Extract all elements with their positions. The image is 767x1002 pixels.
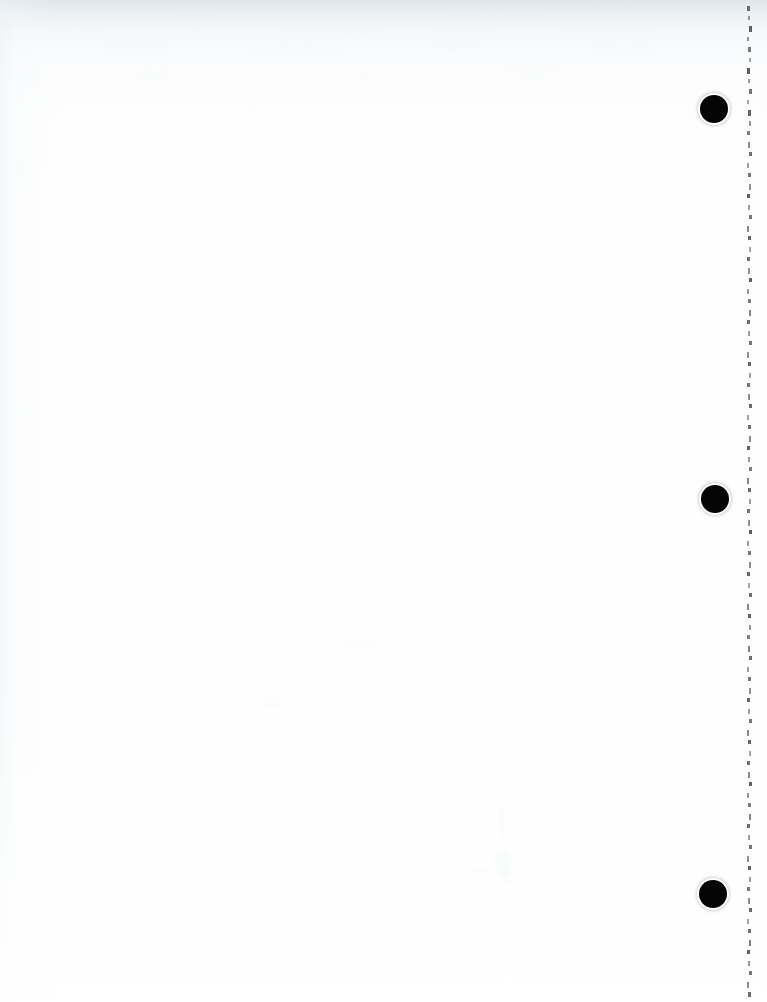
- punch-hole-middle: [701, 485, 729, 513]
- edge-artifact-tick: [747, 856, 749, 862]
- edge-artifact-tick: [748, 961, 750, 966]
- edge-artifact-tick: [749, 751, 751, 756]
- edge-artifact-tick: [749, 58, 751, 62]
- edge-artifact-tick: [749, 341, 752, 345]
- edge-artifact-tick: [747, 289, 749, 294]
- edge-artifact-tick: [748, 110, 751, 116]
- bottom-edge-shading: [0, 682, 767, 1002]
- edge-artifact-tick: [747, 68, 750, 74]
- edge-artifact-tick: [748, 394, 750, 400]
- edge-artifact-tick: [749, 247, 751, 252]
- edge-artifact-tick: [749, 404, 752, 408]
- edge-artifact-tick: [747, 698, 750, 702]
- edge-artifact-tick: [749, 877, 751, 882]
- edge-artifact-tick: [749, 782, 752, 786]
- edge-artifact-tick: [748, 425, 751, 429]
- edge-artifact-tick: [748, 866, 751, 870]
- edge-artifact-tick: [748, 488, 751, 492]
- edge-artifact-tick: [747, 509, 750, 513]
- scanned-page: [0, 0, 767, 1002]
- right-edge-scan-artifacts: [746, 0, 754, 1002]
- edge-artifact-tick: [748, 583, 750, 588]
- edge-artifact-tick: [747, 320, 750, 324]
- edge-artifact-tick: [747, 761, 750, 765]
- edge-artifact-tick: [749, 467, 752, 471]
- edge-artifact-tick: [749, 436, 751, 442]
- edge-artifact-tick: [747, 226, 749, 232]
- edge-artifact-tick: [747, 163, 749, 168]
- edge-artifact-tick: [747, 982, 749, 988]
- edge-artifact-tick: [747, 950, 750, 954]
- edge-artifact-tick: [748, 835, 750, 840]
- edge-artifact-tick: [749, 499, 751, 504]
- edge-artifact-tick: [747, 919, 749, 924]
- edge-artifact-tick: [747, 667, 749, 672]
- edge-artifact-tick: [747, 824, 750, 828]
- edge-artifact-tick: [749, 26, 752, 32]
- edge-artifact-tick: [747, 572, 750, 576]
- edge-artifact-tick: [748, 236, 751, 240]
- edge-artifact-tick: [747, 478, 749, 484]
- edge-artifact-tick: [749, 152, 752, 156]
- edge-artifact-tick: [748, 551, 751, 555]
- edge-artifact-tick: [748, 457, 750, 462]
- edge-artifact-tick: [747, 131, 750, 135]
- edge-artifact-tick: [747, 257, 750, 261]
- edge-artifact-tick: [748, 79, 750, 83]
- edge-artifact-tick: [748, 362, 751, 366]
- edge-artifact-tick: [748, 803, 751, 807]
- edge-artifact-tick: [747, 635, 750, 639]
- edge-artifact-tick: [749, 719, 752, 723]
- edge-artifact-tick: [747, 446, 750, 450]
- edge-artifact-tick: [749, 89, 752, 94]
- edge-artifact-tick: [748, 646, 750, 652]
- edge-artifact-tick: [747, 541, 749, 546]
- edge-artifact-tick: [747, 415, 749, 420]
- edge-artifact-tick: [749, 845, 752, 849]
- punch-hole-bottom: [699, 880, 727, 908]
- edge-artifact-tick: [748, 47, 751, 52]
- edge-artifact-tick: [749, 310, 751, 316]
- edge-artifact-tick: [749, 121, 751, 126]
- edge-artifact-tick: [748, 992, 751, 997]
- punch-hole-top: [700, 95, 728, 123]
- edge-artifact-tick: [747, 793, 749, 798]
- edge-artifact-tick: [749, 530, 752, 534]
- edge-artifact-tick: [749, 373, 751, 378]
- edge-artifact-tick: [749, 688, 751, 694]
- edge-artifact-tick: [747, 383, 750, 387]
- edge-artifact-tick: [748, 142, 750, 148]
- edge-artifact-tick: [749, 593, 752, 597]
- edge-artifact-tick: [749, 625, 751, 630]
- edge-artifact-tick: [748, 331, 750, 336]
- edge-artifact-tick: [747, 887, 750, 891]
- edge-artifact-tick: [749, 215, 752, 219]
- edge-artifact-tick: [748, 614, 751, 618]
- edge-artifact-tick: [749, 656, 752, 660]
- edge-artifact-tick: [748, 205, 750, 210]
- edge-artifact-tick: [748, 520, 750, 526]
- bleed-through-mark: [345, 640, 375, 648]
- edge-artifact-tick: [748, 929, 751, 933]
- edge-artifact-tick: [749, 940, 751, 946]
- edge-artifact-tick: [747, 37, 749, 41]
- edge-artifact-tick: [748, 16, 750, 20]
- edge-artifact-tick: [747, 100, 749, 104]
- edge-artifact-tick: [748, 299, 751, 303]
- edge-artifact-tick: [749, 562, 751, 568]
- edge-artifact-tick: [748, 740, 751, 744]
- edge-artifact-tick: [747, 194, 750, 198]
- edge-artifact-tick: [748, 709, 750, 714]
- edge-artifact-tick: [748, 268, 750, 274]
- edge-artifact-tick: [748, 898, 750, 904]
- edge-artifact-tick: [747, 6, 750, 11]
- edge-artifact-tick: [749, 971, 752, 975]
- edge-artifact-tick: [748, 173, 751, 177]
- edge-artifact-tick: [748, 772, 750, 778]
- edge-artifact-tick: [747, 352, 749, 358]
- edge-artifact-tick: [749, 814, 751, 820]
- edge-artifact-tick: [749, 278, 752, 282]
- edge-artifact-tick: [749, 184, 751, 190]
- edge-artifact-tick: [749, 908, 752, 912]
- edge-artifact-tick: [748, 677, 751, 681]
